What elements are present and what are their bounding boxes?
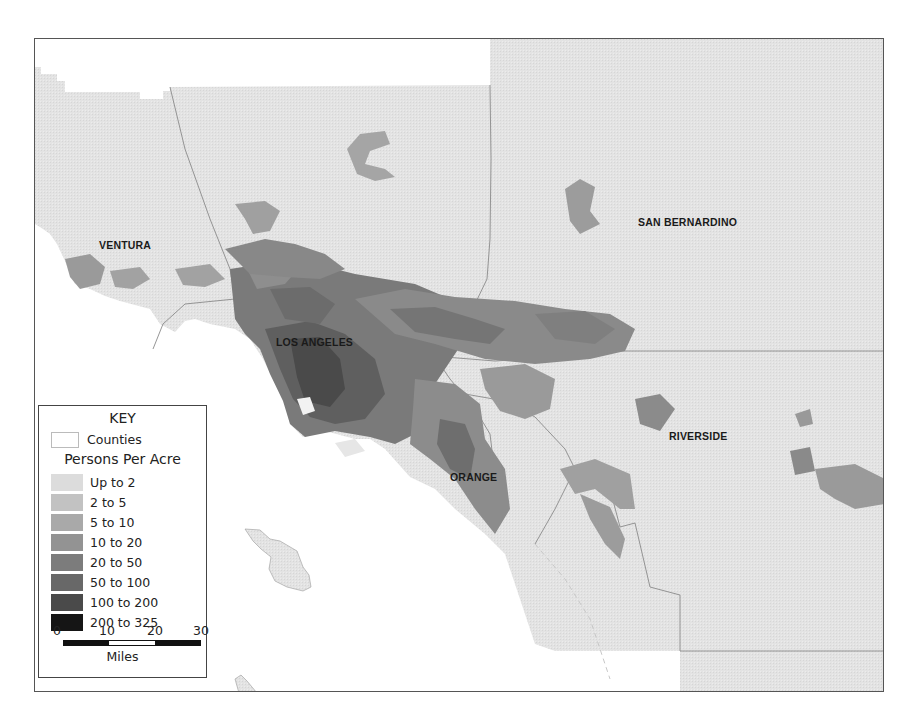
scale-tick: 10 xyxy=(99,623,115,638)
legend-label: 20 to 50 xyxy=(90,554,142,571)
scale-tick: 30 xyxy=(193,623,209,638)
legend-row: 10 to 20 xyxy=(51,534,201,552)
legend-subtitle: Persons Per Acre xyxy=(39,451,206,467)
legend-row: 2 to 5 xyxy=(51,494,201,512)
legend-label: Up to 2 xyxy=(90,474,136,491)
county-label-riverside: RIVERSIDE xyxy=(669,430,727,442)
legend-row: 5 to 10 xyxy=(51,514,201,532)
legend-row: Up to 2 xyxy=(51,474,201,492)
legend-label: 100 to 200 xyxy=(90,594,158,611)
san-clemente-island xyxy=(235,675,257,692)
counties-label: Counties xyxy=(87,432,142,447)
legend-label: 50 to 100 xyxy=(90,574,150,591)
county-label-orange: ORANGE xyxy=(450,471,497,483)
legend-swatch xyxy=(51,494,83,511)
scale-bar xyxy=(63,640,201,646)
legend-label: 10 to 20 xyxy=(90,534,142,551)
scale-segment-dark xyxy=(155,641,200,645)
legend-swatch xyxy=(51,474,83,491)
legend-swatch xyxy=(51,534,83,551)
county-label-los-angeles: LOS ANGELES xyxy=(276,336,353,348)
legend-row: 20 to 50 xyxy=(51,554,201,572)
legend-label: 5 to 10 xyxy=(90,514,134,531)
legend-swatch xyxy=(51,554,83,571)
scale-tick: 20 xyxy=(147,623,163,638)
county-label-san-bernardino: SAN BERNARDINO xyxy=(638,216,737,228)
legend-label: 2 to 5 xyxy=(90,494,126,511)
scale-ticks: 0 10 20 30 xyxy=(51,623,206,639)
santa-catalina-island xyxy=(245,529,311,591)
legend-swatch xyxy=(51,574,83,591)
counties-swatch xyxy=(51,432,79,448)
legend-swatch xyxy=(51,594,83,611)
legend-row: 100 to 200 xyxy=(51,594,201,612)
map-legend: KEY Counties Persons Per Acre Up to 2 2 … xyxy=(38,405,207,678)
county-label-ventura: VENTURA xyxy=(99,239,151,251)
legend-title: KEY xyxy=(39,410,206,426)
scale-tick: 0 xyxy=(53,623,61,638)
scale-unit: Miles xyxy=(39,649,206,664)
legend-swatch xyxy=(51,514,83,531)
scale-segment-dark xyxy=(64,641,109,645)
legend-row: 50 to 100 xyxy=(51,574,201,592)
